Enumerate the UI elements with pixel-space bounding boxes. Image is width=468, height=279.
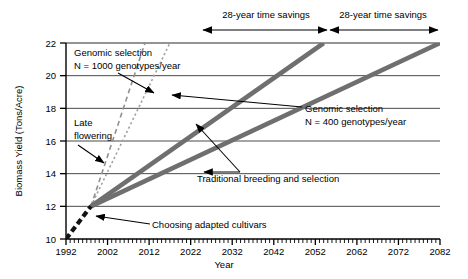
- annotation-traditional-text: Traditional breeding and selection: [197, 173, 339, 184]
- y-tick-label-10: 10: [45, 234, 56, 245]
- y-tick-label-22: 22: [45, 38, 56, 49]
- x-axis-title: Year: [214, 259, 233, 270]
- x-tick-label-2032: 2032: [222, 246, 243, 257]
- chart-figure: 22 20 18 16 14 12 10 1992200220122022203…: [0, 0, 468, 279]
- y-tick-label-16: 16: [45, 136, 56, 147]
- annotation-genomic-400-line1: Genomic selection: [305, 103, 383, 114]
- annotation-choosing-cultivars-text: Choosing adapted cultivars: [152, 219, 267, 230]
- x-tick-label-2042: 2042: [263, 246, 284, 257]
- annotation-late-flowering-line1: Late: [74, 117, 93, 128]
- annotation-late-flowering-line2: flowering: [74, 130, 112, 141]
- x-tick-label-2022: 2022: [180, 246, 201, 257]
- y-tick-label-20: 20: [45, 70, 56, 81]
- annotation-genomic-1000-line1: Genomic selection: [74, 47, 152, 58]
- y-tick-label-14: 14: [45, 168, 56, 179]
- annotation-genomic-1000-line2: N = 1000 genotypes/year: [74, 60, 180, 71]
- time-savings-right-label: 28-year time savings: [339, 9, 427, 20]
- y-axis-title: Biomass Yield (Tons/Acre): [13, 86, 24, 197]
- biomass-yield-chart: 22 20 18 16 14 12 10 1992200220122022203…: [0, 0, 468, 279]
- x-tick-label-2002: 2002: [97, 246, 118, 257]
- x-tick-label-2062: 2062: [346, 246, 367, 257]
- y-tick-label-18: 18: [45, 103, 56, 114]
- x-tick-label-2012: 2012: [139, 246, 160, 257]
- time-savings-left-label: 28-year time savings: [222, 9, 310, 20]
- x-tick-label-2072: 2072: [388, 246, 409, 257]
- x-tick-label-2052: 2052: [305, 246, 326, 257]
- x-tick-label-2082: 2082: [429, 246, 450, 257]
- annotation-genomic-400-line2: N = 400 genotypes/year: [305, 116, 406, 127]
- y-tick-label-12: 12: [45, 201, 56, 212]
- x-tick-label-1992: 1992: [55, 246, 76, 257]
